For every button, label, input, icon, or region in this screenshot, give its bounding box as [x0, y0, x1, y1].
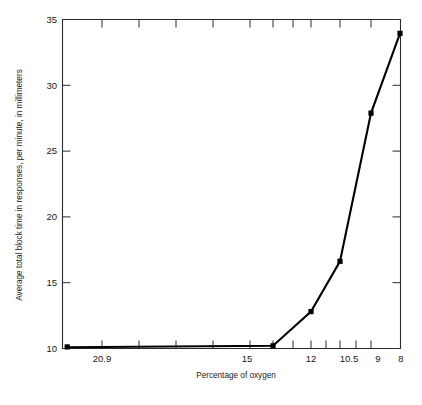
y-tick-label-1: 15 [46, 277, 57, 288]
x-tick-label-5: 8 [398, 353, 403, 364]
data-series [65, 31, 403, 350]
y-tick-label-0: 10 [46, 343, 57, 354]
data-point-12 [308, 309, 313, 314]
data-point-10.5 [337, 259, 342, 264]
figure-container: 10 15 20 25 30 35 [0, 0, 422, 405]
axes-rect [63, 20, 401, 349]
x-axis-title: Percentage of oxygen [196, 371, 276, 380]
top-axis-ticks [102, 20, 371, 28]
x-tick-label-4: 9 [375, 353, 380, 364]
x-tick-label-1: 15 [242, 353, 253, 364]
x-tick-label-2: 12 [306, 353, 317, 364]
data-point-20.9 [65, 344, 70, 349]
plot-frame [63, 20, 401, 349]
y-tick-label-3: 25 [46, 145, 57, 156]
x-tick-label-3: 10.5 [340, 353, 359, 364]
y-tick-label-5: 35 [46, 14, 57, 25]
y-tick-label-4: 30 [46, 80, 57, 91]
y-axis-title: Average total block time in responses, p… [15, 69, 24, 300]
x-tick-label-0: 20.9 [93, 353, 112, 364]
y-axis-ticks: 10 15 20 25 30 35 [46, 14, 70, 354]
series-line-average-block-time [68, 33, 401, 347]
data-point-9 [368, 111, 373, 116]
x-axis-labels: 20.9 15 12 10.5 9 8 [93, 353, 404, 364]
right-axis-ticks [393, 85, 401, 282]
data-point-15 [270, 343, 275, 348]
data-point-8 [397, 31, 402, 36]
y-tick-label-2: 20 [46, 211, 57, 222]
line-chart: 10 15 20 25 30 35 [0, 0, 422, 405]
